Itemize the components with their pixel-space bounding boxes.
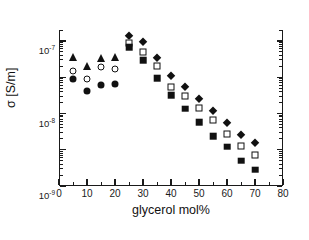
x-tick-major (282, 179, 283, 185)
y-tick-minor (60, 132, 63, 133)
x-tick-label: 40 (165, 189, 176, 199)
y-tick-major-right (277, 40, 283, 41)
data-point-filled-square (196, 119, 203, 126)
y-axis-title: σ [S/m] (4, 68, 18, 108)
y-tick-major-right (277, 149, 283, 150)
y-tick-minor-right (279, 42, 282, 43)
y-tick-minor (60, 127, 63, 128)
data-point-open-square (196, 104, 203, 111)
x-tick-major (170, 179, 171, 185)
data-point-filled-circle (84, 87, 91, 94)
y-tick-minor (60, 85, 63, 86)
y-tick-minor-right (279, 82, 282, 83)
x-tick-major (254, 179, 255, 185)
y-axis-line (59, 30, 60, 186)
y-tick-minor-right (279, 138, 282, 139)
data-point-filled-square (182, 105, 189, 112)
y-tick-label: 10-7 (39, 46, 55, 56)
y-tick-minor-right (279, 127, 282, 128)
x-axis-line (59, 185, 283, 186)
y-tick-minor (60, 157, 63, 158)
y-tick-minor (60, 168, 63, 169)
data-point-filled-diamond (208, 107, 217, 116)
y-tick-minor-right (279, 85, 282, 86)
y-tick-minor-right (279, 51, 282, 52)
x-tick-minor (241, 182, 242, 185)
y-tick-minor-right (279, 168, 282, 169)
data-point-open-circle (70, 67, 77, 74)
y-tick-minor-right (279, 157, 282, 158)
y-tick-minor (60, 82, 63, 83)
data-point-filled-square (238, 157, 245, 164)
data-point-open-square (224, 131, 231, 138)
x-tick-label: 10 (81, 189, 92, 199)
x-tick-label: 80 (277, 189, 288, 199)
x-tick-label: 70 (249, 189, 260, 199)
y-tick-major-right (277, 185, 283, 186)
data-point-filled-square (252, 166, 259, 173)
y-tick-minor-right (279, 102, 282, 103)
y-tick-minor (60, 121, 63, 122)
y-tick-major-right (277, 113, 283, 114)
data-point-filled-circle (70, 75, 77, 82)
y-tick-minor (60, 91, 63, 92)
y-tick-minor-right (279, 132, 282, 133)
y-tick-major: 10-9 (60, 113, 66, 114)
x-tick-minor (157, 182, 158, 185)
y-tick-minor (60, 138, 63, 139)
x-tick-major (114, 179, 115, 185)
data-point-filled-diamond (138, 38, 147, 47)
data-point-filled-square (126, 44, 133, 51)
data-point-filled-triangle (111, 53, 119, 61)
y-tick-major: 10-7 (60, 40, 66, 41)
y-tick-minor (60, 124, 63, 125)
x-tick-major (86, 179, 87, 185)
y-tick-minor-right (279, 151, 282, 152)
y-tick-minor-right (279, 164, 282, 165)
data-point-filled-circle (112, 81, 119, 88)
y-tick-minor-right (279, 66, 282, 67)
y-tick-major: 10-10 (60, 149, 66, 150)
data-point-filled-square (210, 133, 217, 140)
y-tick-minor-right (279, 55, 282, 56)
y-tick-minor (60, 48, 63, 49)
y-tick-minor-right (279, 175, 282, 176)
data-point-filled-square (168, 92, 175, 99)
y-tick-minor (60, 88, 63, 89)
data-point-open-circle (112, 65, 119, 72)
x-tick-major (58, 179, 59, 185)
data-point-filled-diamond (250, 138, 259, 147)
y-tick-major: 10-8 (60, 77, 66, 78)
y-tick-minor (60, 46, 63, 47)
x-tick-label: 20 (109, 189, 120, 199)
y-tick-minor (60, 66, 63, 67)
y-tick-minor-right (279, 115, 282, 116)
y-tick-minor (60, 160, 63, 161)
data-point-open-square (182, 92, 189, 99)
data-point-filled-triangle (69, 53, 77, 61)
y-tick-minor (60, 78, 63, 79)
y-tick-minor-right (279, 116, 282, 117)
x-tick-minor (213, 182, 214, 185)
y-tick-minor-right (279, 30, 282, 31)
data-point-filled-diamond (236, 131, 245, 140)
x-tick-minor (73, 182, 74, 185)
y-tick-minor-right (279, 59, 282, 60)
data-point-filled-diamond (166, 71, 175, 80)
data-point-filled-diamond (194, 94, 203, 103)
x-tick-minor (129, 182, 130, 185)
data-point-filled-square (140, 57, 147, 64)
y-tick-minor-right (279, 121, 282, 122)
y-tick-minor (60, 116, 63, 117)
data-point-filled-diamond (152, 53, 161, 62)
data-point-open-circle (84, 75, 91, 82)
y-tick-minor-right (279, 160, 282, 161)
y-tick-label: 10-8 (39, 119, 55, 129)
y-tick-minor-right (279, 153, 282, 154)
data-point-filled-diamond (222, 118, 231, 127)
y-tick-minor (60, 80, 63, 81)
data-point-open-square (168, 83, 175, 90)
data-point-filled-square (154, 75, 161, 82)
y-tick-minor-right (279, 155, 282, 156)
x-tick-major (226, 179, 227, 185)
